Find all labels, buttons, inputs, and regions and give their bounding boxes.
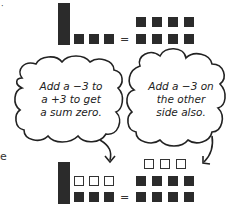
negative-tile: [144, 159, 154, 169]
unit-tile: [152, 34, 162, 44]
negative-tile: [176, 159, 186, 169]
negative-tile: [74, 176, 84, 186]
unit-tile: [136, 17, 146, 27]
unit-tile: [152, 176, 162, 186]
unit-tile: [74, 192, 84, 202]
unit-tile: [74, 34, 84, 44]
equals-sign: =: [120, 193, 129, 203]
equals-sign: =: [120, 35, 129, 45]
unit-tile: [136, 176, 146, 186]
unit-tile: [168, 34, 178, 44]
unit-tile: [184, 176, 194, 186]
bubble-line: side also.: [134, 106, 228, 119]
unit-tile: [136, 192, 146, 202]
negative-tile: [104, 176, 114, 186]
unit-tile: [184, 34, 194, 44]
unit-tile: [152, 17, 162, 27]
unit-tile: [184, 192, 194, 202]
x-bar-tile: [58, 162, 70, 204]
unit-tile: [168, 192, 178, 202]
bubble-line: a sum zero.: [24, 106, 118, 119]
unit-tile: [168, 17, 178, 27]
bubble-line: Add a −3 on: [134, 80, 228, 93]
unit-tile: [104, 192, 114, 202]
bubble-line: Add a −3 to: [24, 80, 118, 93]
unit-tile: [136, 34, 146, 44]
unit-tile: [104, 34, 114, 44]
unit-tile: [168, 176, 178, 186]
x-bar-tile: [58, 3, 70, 45]
unit-tile: [152, 192, 162, 202]
left-bubble-text: Add a −3 to a +3 to get a sum zero.: [24, 80, 118, 119]
edge-dot: ·: [1, 2, 4, 11]
unit-tile: [89, 192, 99, 202]
negative-tile: [160, 159, 170, 169]
bubble-line: the other: [134, 93, 228, 106]
unit-tile: [89, 34, 99, 44]
unit-tile: [184, 17, 194, 27]
edge-text-fragment: e: [0, 150, 7, 163]
right-bubble-text: Add a −3 on the other side also.: [134, 80, 228, 119]
negative-tile: [89, 176, 99, 186]
bubble-line: a +3 to get: [24, 93, 118, 106]
